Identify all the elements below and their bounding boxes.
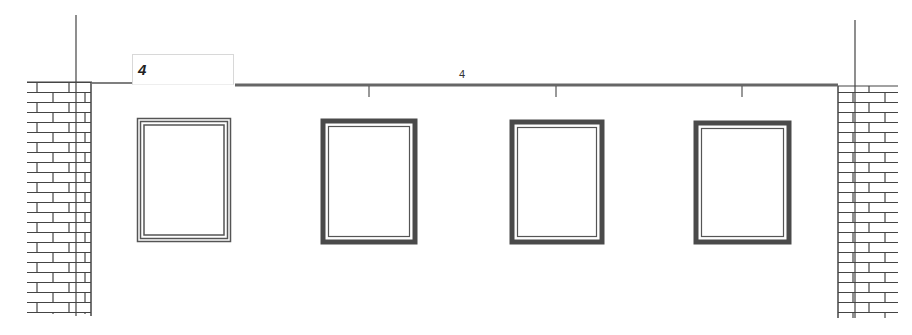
elevation-drawing [0,0,912,335]
window-3[interactable] [512,122,602,242]
window-1[interactable] [138,119,231,242]
window-2[interactable] [323,121,415,242]
window-4[interactable] [696,123,789,242]
right-brick-wall [838,86,898,318]
dimension-label: 4 [459,68,465,80]
dimension-line [92,83,838,97]
left-brick-wall [27,82,92,316]
window-count-input[interactable]: 4 [132,54,234,85]
